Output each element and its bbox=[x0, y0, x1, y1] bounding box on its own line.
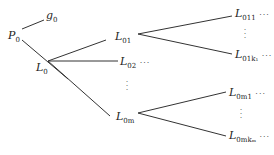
node-l0m1: L0m1 ··· bbox=[229, 87, 266, 103]
vdots-l01-children: ··· bbox=[243, 28, 247, 40]
vdots-level1: ··· bbox=[125, 80, 129, 92]
edge-l0m-l0mkm bbox=[138, 113, 226, 136]
edge-l0m-l0m1 bbox=[138, 92, 226, 113]
node-l01k1: L01k₁ ··· bbox=[235, 49, 272, 65]
node-l02: L02 ··· bbox=[120, 56, 150, 72]
edge-p0-g0 bbox=[22, 20, 44, 29]
node-l0m: L0m bbox=[116, 111, 134, 127]
node-l0mkm: L0mkₘ ··· bbox=[229, 130, 270, 146]
node-l01: L01 bbox=[115, 31, 131, 47]
edge-l01-l01k1 bbox=[138, 34, 232, 54]
node-l011: L011 ··· bbox=[235, 8, 270, 24]
edge-l0-l0m bbox=[48, 61, 110, 116]
vdots-l0m-children: ··· bbox=[239, 108, 243, 120]
edge-l0-l01 bbox=[48, 40, 106, 61]
node-l0: L0 bbox=[36, 62, 48, 78]
node-p0: P0 bbox=[8, 30, 20, 46]
edge-l01-l011 bbox=[138, 16, 232, 34]
node-g0: g0 bbox=[46, 10, 58, 26]
